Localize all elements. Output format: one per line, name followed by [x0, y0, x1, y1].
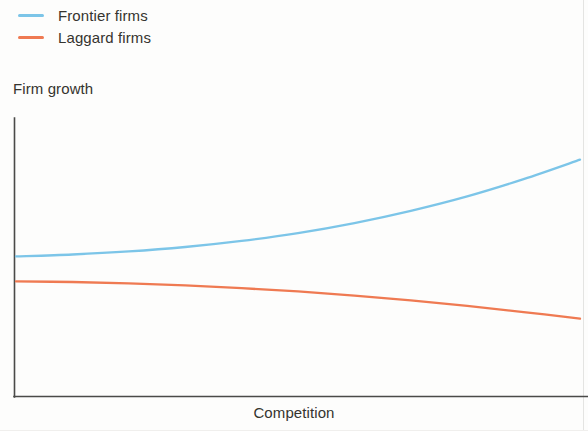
chart-figure: Frontier firms Laggard firms Firm growth… [0, 0, 588, 431]
series-line-frontier-firms [16, 160, 580, 257]
series-line-laggard-firms [16, 281, 580, 318]
plot-area [0, 0, 588, 431]
